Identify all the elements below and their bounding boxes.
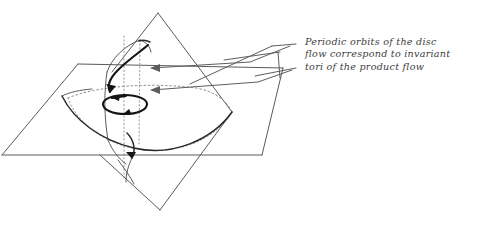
- caption: Periodic orbits of the disc flow corresp…: [305, 36, 481, 73]
- diagram-canvas: [0, 0, 482, 225]
- leader-upper-path: [152, 46, 290, 68]
- caption-line-1: Periodic orbits of the disc: [305, 36, 481, 48]
- diamond-edge-lower-right: [160, 112, 232, 210]
- disc-boundary-front-dashed-right: [176, 112, 232, 148]
- periodic-orbit-circle: [103, 95, 147, 115]
- figure-root: Periodic orbits of the disc flow corresp…: [0, 0, 482, 225]
- leader-cross-a: [224, 52, 280, 60]
- leader-cross-e: [255, 68, 296, 76]
- helical-flow-arrow: [106, 40, 150, 92]
- hplane-edge-left: [2, 64, 78, 155]
- caption-line-2: flow correspond to invariant: [305, 48, 481, 60]
- disc-boundary: [62, 85, 232, 150]
- caption-line-3: tori of the product flow: [305, 61, 481, 73]
- disc-boundary-back-dashed: [68, 85, 232, 112]
- diamond-edge-upper-right: [158, 13, 232, 112]
- helical-flow-arrowhead: [106, 84, 116, 92]
- leader-cross-c: [272, 44, 296, 46]
- leader-line-lower: [150, 70, 292, 94]
- hplane-edge-right: [262, 68, 283, 155]
- lower-flow-arrow: [118, 133, 136, 184]
- vertical-diamond-plane: [100, 13, 232, 210]
- cylinder-left-wall: [105, 72, 108, 140]
- cylinder-right-wall-dashed: [139, 40, 140, 146]
- periodic-orbit-ellipse: [103, 95, 147, 114]
- leader-lower-arrowhead: [150, 86, 160, 94]
